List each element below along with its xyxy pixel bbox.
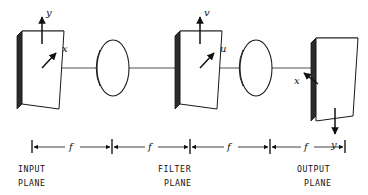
lens-2-body [240,40,272,96]
dim-segment-1: f [34,141,110,152]
output-plane-face [316,38,358,121]
output-plane-caption-line1: OUTPUT [297,164,330,174]
filter-plane-caption-line2: PLANE [164,178,192,188]
optical-system-diagram: y x v u [0,0,368,195]
lens-1-body [97,40,129,96]
dim-segment-3: f [192,141,268,152]
dim-segment-3-label: f [226,141,233,152]
output-plane-caption-line2: PLANE [304,178,332,188]
filter-plane-face [180,31,222,109]
dim-segment-2: f [114,141,188,152]
input-plane-x-label: x [62,43,68,54]
dim-segment-1-label: f [68,141,75,152]
dim-segment-2-label: f [147,141,154,152]
input-plane [17,31,64,109]
lens-1 [96,40,129,96]
filter-plane [175,31,222,109]
output-plane-y-label: y [330,139,337,150]
input-plane-side-edge [17,31,22,109]
input-plane-caption-line1: INPUT [18,164,46,174]
plane-captions: INPUT PLANE FILTER PLANE OUTPUT PLANE [18,164,332,188]
input-plane-caption-line2: PLANE [18,178,46,188]
figure-canvas: y x v u [0,0,368,195]
lens-2 [239,40,272,96]
filter-plane-u-label: u [220,43,226,54]
input-plane-face [22,31,64,109]
dim-segment-4-label: f [303,141,310,152]
filter-plane-side-edge [175,31,180,109]
dimension-line: f f f [32,139,345,154]
filter-plane-caption-line1: FILTER [158,164,191,174]
output-plane-x-label: x [294,75,300,86]
filter-plane-v-label: v [204,7,210,18]
input-plane-y-label: y [45,7,52,18]
